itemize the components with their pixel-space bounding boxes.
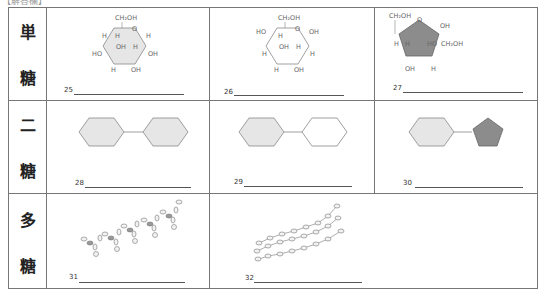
glucose-beta-structure-icon: CH₂OH O HO OH H OH H H H H OH	[210, 8, 374, 88]
cell-q27: CH₂OH O OH H H HO CH₂OH OH H 27	[375, 8, 539, 100]
answer-input-q31[interactable]	[79, 282, 185, 283]
svg-text:CH₂OH: CH₂OH	[278, 14, 300, 22]
svg-text:OH: OH	[279, 43, 289, 51]
svg-text:H: H	[278, 32, 283, 40]
svg-text:H: H	[133, 43, 138, 51]
row-label-char: 二	[20, 112, 36, 136]
cell-q25: CH₂OH O H H OH H H HO OH H OH 25	[47, 8, 209, 100]
svg-text:H: H	[102, 32, 107, 40]
svg-text:H: H	[394, 40, 399, 48]
answer-input-q28[interactable]	[85, 187, 191, 188]
row-label-polysaccharide: 多 糖	[9, 194, 46, 289]
polysaccharide-chains-icon	[210, 194, 374, 269]
cell-q26: CH₂OH O HO OH H OH H H H H OH 26	[210, 8, 374, 100]
svg-text:H: H	[405, 40, 410, 48]
disaccharide-gray-gray-icon	[47, 101, 209, 171]
svg-text:H: H	[262, 50, 267, 58]
question-number: 31	[69, 273, 78, 281]
svg-text:CH₂OH: CH₂OH	[441, 40, 463, 48]
svg-text:CH₂OH: CH₂OH	[115, 14, 137, 22]
row-label-disaccharide: 二 糖	[9, 101, 46, 193]
svg-text:CH₂OH: CH₂OH	[389, 12, 411, 20]
disaccharide-gray-white-icon	[210, 101, 374, 171]
glucose-alpha-structure-icon: CH₂OH O H H OH H H HO OH H OH	[47, 8, 209, 88]
svg-text:H: H	[115, 32, 120, 40]
answer-input-q26[interactable]	[234, 95, 344, 96]
fructose-structure-icon: CH₂OH O OH H H HO CH₂OH OH H	[375, 8, 539, 88]
cell-q28: 28	[47, 101, 209, 193]
svg-text:H: H	[111, 66, 116, 74]
row-label-monosaccharide: 単 糖	[9, 8, 46, 100]
question-number: 25	[64, 86, 73, 94]
svg-text:OH: OH	[148, 50, 158, 58]
polysaccharide-helix-icon	[47, 194, 209, 269]
answer-input-q30[interactable]	[415, 187, 523, 188]
cell-q30: 30	[375, 101, 539, 193]
answer-input-q29[interactable]	[244, 186, 352, 187]
svg-text:HO: HO	[427, 40, 437, 48]
svg-text:H: H	[310, 50, 315, 58]
row-label-char: 糖	[20, 253, 36, 277]
svg-text:H: H	[296, 43, 301, 51]
svg-text:H: H	[274, 66, 279, 74]
row-label-char: 単	[20, 19, 36, 43]
row-label-char: 糖	[20, 158, 36, 182]
question-number: 27	[393, 84, 402, 92]
answer-table: 単 糖 二 糖 多 糖 CH₂OH O H H OH H H HO OH H O…	[8, 7, 538, 289]
question-number: 30	[403, 179, 412, 187]
answer-input-q32[interactable]	[254, 282, 362, 283]
svg-text:O: O	[132, 25, 137, 33]
svg-text:OH: OH	[309, 28, 319, 36]
svg-text:OH: OH	[294, 66, 304, 74]
svg-text:H: H	[431, 65, 436, 73]
row-label-char: 糖	[20, 65, 36, 89]
answer-input-q27[interactable]	[403, 92, 523, 93]
question-number: 28	[75, 179, 84, 187]
svg-text:H: H	[146, 32, 151, 40]
disaccharide-gray-darkpentagon-icon	[375, 101, 539, 171]
cell-q31: 31	[47, 194, 209, 289]
answer-input-q25[interactable]	[74, 94, 184, 95]
svg-text:OH: OH	[440, 22, 450, 30]
svg-text:O: O	[295, 25, 300, 33]
question-number: 29	[234, 178, 243, 186]
svg-text:HO: HO	[92, 50, 102, 58]
question-number: 32	[245, 274, 254, 282]
svg-text:HO: HO	[256, 28, 266, 36]
row-label-char: 多	[20, 207, 36, 231]
cell-q32: 32	[210, 194, 374, 289]
svg-text:OH: OH	[405, 65, 415, 73]
svg-text:OH: OH	[116, 43, 126, 51]
svg-text:O: O	[417, 16, 422, 24]
svg-text:OH: OH	[131, 66, 141, 74]
section-header: 【解答欄】	[2, 0, 47, 7]
question-number: 26	[224, 88, 233, 96]
cell-q29: 29	[210, 101, 374, 193]
